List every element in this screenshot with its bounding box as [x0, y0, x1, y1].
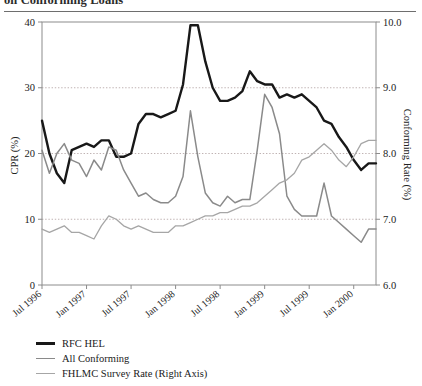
svg-text:Jul 1998: Jul 1998 — [188, 288, 221, 318]
chart-legend: RFC HELAll ConformingFHLMC Survey Rate (… — [36, 336, 376, 381]
tick-marks — [38, 22, 380, 289]
svg-text:20: 20 — [25, 148, 36, 159]
svg-text:10: 10 — [25, 214, 36, 225]
legend-swatch — [36, 358, 55, 360]
legend-label: FHLMC Survey Rate (Right Axis) — [62, 368, 207, 379]
svg-text:Jan 1999: Jan 1999 — [231, 288, 266, 319]
y-axis-left-title: CPR (%) — [9, 126, 20, 186]
series-lines — [42, 25, 376, 242]
svg-text:6.0: 6.0 — [383, 280, 396, 291]
legend-swatch — [36, 342, 55, 345]
svg-text:8.0: 8.0 — [383, 148, 396, 159]
chart-svg: 0102030406.07.08.09.010.0Jul 1996Jan 199… — [0, 0, 422, 330]
chart: 0102030406.07.08.09.010.0Jul 1996Jan 199… — [0, 0, 422, 330]
svg-text:Jan 2000: Jan 2000 — [320, 288, 355, 319]
svg-text:7.0: 7.0 — [383, 214, 396, 225]
svg-text:9.0: 9.0 — [383, 82, 396, 93]
svg-text:30: 30 — [25, 82, 36, 93]
legend-label: RFC HEL — [62, 338, 105, 349]
legend-label: All Conforming — [62, 353, 129, 364]
legend-item-rfc-hel: RFC HEL — [36, 336, 376, 351]
svg-text:Jul 1997: Jul 1997 — [99, 288, 132, 318]
gridlines — [42, 88, 376, 220]
svg-text:Jul 1999: Jul 1999 — [277, 288, 310, 318]
svg-text:40: 40 — [25, 17, 36, 28]
svg-text:10.0: 10.0 — [383, 17, 401, 28]
legend-swatch — [36, 373, 55, 375]
y-axis-right-title: Conforming Rate (%) — [402, 95, 413, 215]
series-line-rfc-hel — [42, 25, 376, 183]
svg-text:Jan 1997: Jan 1997 — [53, 288, 88, 319]
legend-item-all-conforming: All Conforming — [36, 351, 376, 366]
svg-text:Jan 1998: Jan 1998 — [142, 288, 177, 319]
svg-text:Jul 1996: Jul 1996 — [10, 288, 43, 318]
legend-item-fhlmc-survey-rate: FHLMC Survey Rate (Right Axis) — [36, 366, 376, 381]
series-line-all-conforming — [42, 94, 376, 242]
